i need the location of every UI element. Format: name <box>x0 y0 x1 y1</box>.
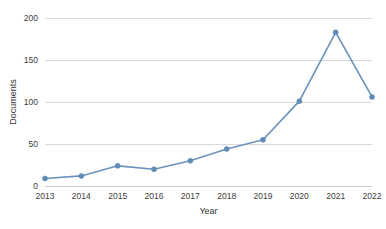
data-point-2013: 2013: 9 <box>43 176 48 181</box>
x-tick-label-2013: 2013 <box>36 191 55 201</box>
line-chart: 0501001502002013201420152016201720182019… <box>0 0 386 229</box>
x-tick-label-2021: 2021 <box>326 191 345 201</box>
series-line-Documents <box>45 32 372 178</box>
data-point-2017: 2017: 30 <box>188 158 193 163</box>
x-tick-label-2016: 2016 <box>145 191 164 201</box>
chart-canvas: 0501001502002013201420152016201720182019… <box>0 0 386 229</box>
data-point-2014: 2014: 12 <box>79 173 84 178</box>
y-tick-label-50: 50 <box>29 139 39 149</box>
y-tick-label-150: 150 <box>24 55 38 65</box>
data-point-2016: 2016: 20 <box>152 167 157 172</box>
x-tick-label-2015: 2015 <box>108 191 127 201</box>
x-tick-label-2018: 2018 <box>217 191 236 201</box>
x-tick-label-2017: 2017 <box>181 191 200 201</box>
x-tick-label-2019: 2019 <box>254 191 273 201</box>
y-axis-title: Documents <box>8 79 18 125</box>
x-axis-title: Year <box>199 206 217 216</box>
data-point-2018: 2018: 44 <box>224 147 229 152</box>
data-point-2021: 2021: 183 <box>333 30 338 35</box>
x-tick-label-2014: 2014 <box>72 191 91 201</box>
data-point-2020: 2020: 101 <box>297 99 302 104</box>
y-tick-label-200: 200 <box>24 13 38 23</box>
y-tick-label-0: 0 <box>33 181 38 191</box>
data-point-2022: 2022: 106 <box>370 94 375 99</box>
y-tick-label-100: 100 <box>24 97 38 107</box>
x-tick-label-2022: 2022 <box>363 191 382 201</box>
data-point-2015: 2015: 24 <box>115 163 120 168</box>
x-tick-label-2020: 2020 <box>290 191 309 201</box>
data-point-2019: 2019: 55 <box>261 137 266 142</box>
